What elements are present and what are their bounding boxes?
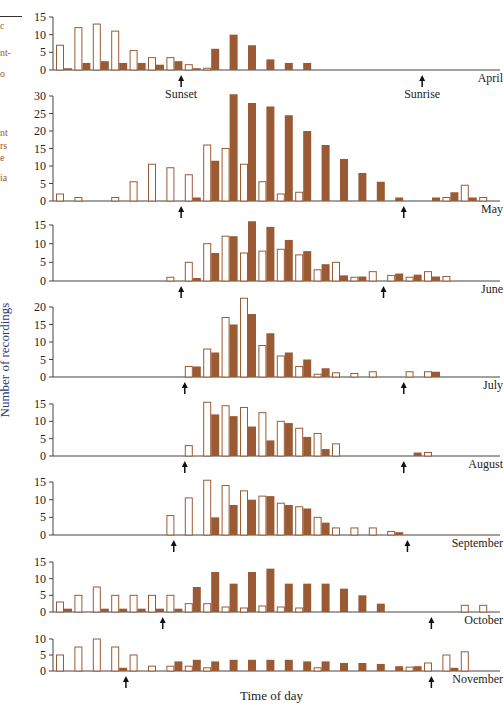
month-label-june: June <box>481 282 503 296</box>
filled-bar <box>469 198 477 202</box>
filled-bar <box>266 107 274 202</box>
y-tick-label: 5 <box>40 45 46 59</box>
filled-bar <box>395 198 403 202</box>
y-tick-label: 10 <box>34 632 46 646</box>
filled-bar <box>248 660 256 671</box>
y-tick-label: 15 <box>34 555 46 569</box>
filled-bar <box>285 115 293 201</box>
filled-bar <box>193 198 201 202</box>
y-axis-label: Number of recordings <box>0 303 13 418</box>
open-bar <box>185 446 192 456</box>
open-bar <box>222 607 229 612</box>
open-bar <box>204 244 211 281</box>
filled-bar <box>340 275 348 281</box>
open-bar <box>204 668 211 671</box>
open-bar <box>296 608 303 612</box>
month-label-july: July <box>483 378 503 392</box>
filled-bar <box>82 63 90 70</box>
filled-bar <box>64 609 72 612</box>
open-bar <box>388 531 395 535</box>
sunset-arrowhead-icon <box>178 206 184 212</box>
month-label-may: May <box>481 202 503 216</box>
open-bar <box>314 517 321 535</box>
filled-bar <box>414 275 422 281</box>
open-bar <box>351 277 358 281</box>
open-bar <box>130 655 137 671</box>
filled-bar <box>101 609 109 612</box>
y-tick-label: 15 <box>34 318 46 332</box>
filled-bar <box>322 584 330 612</box>
open-bar <box>75 647 82 671</box>
open-bar <box>93 587 100 612</box>
filled-bar <box>266 227 274 281</box>
sunrise-arrowhead-icon <box>428 676 434 682</box>
open-bar <box>406 372 413 377</box>
y-tick-label: 0 <box>40 664 46 678</box>
filled-bar <box>156 609 164 612</box>
open-bar <box>93 24 100 70</box>
y-tick-label: 10 <box>34 414 46 428</box>
filled-bar <box>119 668 127 671</box>
filled-bar <box>193 68 201 70</box>
open-bar <box>185 367 192 378</box>
filled-bar <box>414 666 422 671</box>
filled-bar <box>303 509 311 536</box>
open-bar <box>112 647 119 671</box>
filled-bar <box>377 182 385 201</box>
open-bar <box>204 145 211 201</box>
open-bar <box>112 198 119 202</box>
sunrise-arrowhead-icon <box>401 206 407 212</box>
filled-bar <box>450 192 458 201</box>
filled-bar <box>211 353 219 378</box>
filled-bar <box>322 661 330 671</box>
open-bar <box>333 373 340 377</box>
open-bar <box>480 198 487 202</box>
filled-bar <box>340 663 348 671</box>
filled-bar <box>432 372 440 377</box>
filled-bar <box>285 423 293 456</box>
open-bar <box>149 666 156 671</box>
y-tick-label: 0 <box>40 370 46 384</box>
open-bar <box>443 198 450 202</box>
filled-bar <box>322 145 330 201</box>
open-bar <box>204 349 211 377</box>
sunset-arrowhead-icon <box>123 676 129 682</box>
filled-bar <box>211 414 219 456</box>
y-tick-label: 20 <box>34 300 46 314</box>
open-bar <box>369 528 376 535</box>
open-bar <box>406 667 413 671</box>
open-bar <box>461 605 468 612</box>
open-bar <box>296 507 303 535</box>
filled-bar <box>285 353 293 378</box>
filled-bar <box>358 277 366 281</box>
filled-bar <box>64 68 72 70</box>
open-bar <box>259 182 266 201</box>
open-bar <box>296 367 303 378</box>
y-tick-label: 5 <box>40 177 46 191</box>
open-bar <box>259 346 266 378</box>
open-bar <box>57 45 64 70</box>
filled-bar <box>266 496 274 535</box>
filled-bar <box>377 664 385 671</box>
open-bar <box>425 663 432 671</box>
filled-bar <box>358 173 366 201</box>
sunset-arrowhead-icon <box>182 382 188 388</box>
y-tick-label: 15 <box>34 397 46 411</box>
filled-bar <box>230 35 238 70</box>
filled-bar <box>285 240 293 281</box>
open-bar <box>75 28 82 70</box>
filled-bar <box>322 264 330 281</box>
filled-bar <box>230 236 238 281</box>
filled-bar <box>266 660 274 671</box>
y-tick-label: 0 <box>40 274 46 288</box>
open-bar <box>57 602 64 612</box>
filled-bar <box>395 532 403 535</box>
y-tick-label: 15 <box>34 218 46 232</box>
open-bar <box>241 608 248 612</box>
open-bar <box>241 407 248 456</box>
open-bar <box>185 604 192 612</box>
filled-bar <box>174 661 182 671</box>
filled-bar <box>174 61 182 70</box>
open-bar <box>222 318 229 378</box>
open-bar <box>461 652 468 671</box>
